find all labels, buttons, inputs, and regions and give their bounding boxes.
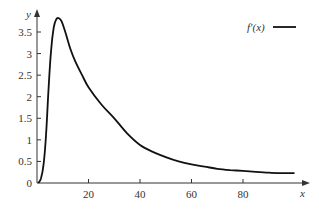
y-tick-label: 0 <box>27 177 33 189</box>
y-tick-label: 1.5 <box>18 112 32 124</box>
x-axis-label: x <box>299 187 305 199</box>
x-ticks: 20406080 <box>83 179 249 200</box>
series-line-f-prime <box>38 18 294 183</box>
x-tick-label: 40 <box>135 188 147 200</box>
y-tick-label: 3.5 <box>18 26 32 38</box>
legend-label: f′(x) <box>247 21 265 34</box>
y-axis-label: y <box>25 8 31 20</box>
y-tick-label: 0.5 <box>18 155 32 167</box>
legend: f′(x) <box>247 21 296 34</box>
x-axis-arrow-icon <box>302 180 310 186</box>
line-chart: 20406080 00.511.522.533.5 x y f′(x) <box>0 0 319 209</box>
y-tick-label: 2 <box>27 91 33 103</box>
x-tick-label: 80 <box>238 188 250 200</box>
y-ticks: 00.511.522.533.5 <box>18 26 41 189</box>
x-tick-label: 60 <box>186 188 198 200</box>
y-axis-arrow-icon <box>34 9 40 17</box>
y-tick-label: 3 <box>27 48 33 60</box>
x-tick-label: 20 <box>83 188 95 200</box>
y-tick-label: 1 <box>27 134 33 146</box>
y-tick-label: 2.5 <box>18 69 32 81</box>
